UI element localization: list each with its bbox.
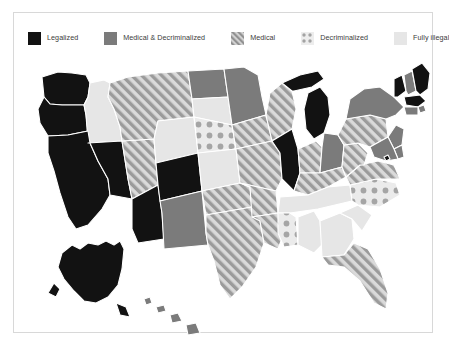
legend-label-decriminalized: Decriminalized bbox=[320, 33, 368, 43]
legend-item-fully-illegal: Fully illegal bbox=[394, 32, 449, 45]
solid-gray-swatch bbox=[104, 32, 117, 45]
dotted-swatch bbox=[301, 32, 314, 45]
state-AK[interactable] bbox=[48, 241, 130, 317]
legend-item-medical-decriminalized: Medical & Decriminalized bbox=[104, 32, 205, 45]
figure-frame: Legalized Medical & Decriminalized bbox=[13, 12, 433, 333]
us-choropleth-map bbox=[28, 53, 433, 343]
solid-black-swatch bbox=[28, 32, 41, 45]
state-CT[interactable] bbox=[404, 107, 418, 115]
solid-lightgray-swatch bbox=[394, 32, 407, 45]
state-MI-lower[interactable] bbox=[304, 87, 330, 139]
legend-label-medical: Medical bbox=[250, 33, 275, 43]
legend-item-medical: Medical bbox=[231, 32, 275, 45]
state-HI[interactable] bbox=[144, 297, 200, 335]
map-legend: Legalized Medical & Decriminalized bbox=[28, 27, 434, 49]
legend-item-legalized: Legalized bbox=[28, 32, 78, 45]
state-RI[interactable] bbox=[418, 105, 426, 113]
legend-label-legalized: Legalized bbox=[47, 33, 78, 43]
state-NM[interactable] bbox=[160, 191, 208, 249]
state-IN[interactable] bbox=[298, 141, 322, 173]
state-ND[interactable] bbox=[188, 69, 228, 99]
state-WA[interactable] bbox=[42, 72, 90, 105]
legend-item-decriminalized: Decriminalized bbox=[301, 32, 368, 45]
state-AL[interactable] bbox=[298, 211, 322, 253]
diagonal-hatch-swatch bbox=[231, 32, 244, 45]
legend-label-fully-illegal: Fully illegal bbox=[413, 33, 449, 43]
map-area bbox=[28, 53, 433, 343]
state-TX[interactable] bbox=[206, 207, 264, 299]
legend-label-medical-decriminalized: Medical & Decriminalized bbox=[123, 33, 205, 43]
state-shapes-group bbox=[38, 63, 430, 335]
